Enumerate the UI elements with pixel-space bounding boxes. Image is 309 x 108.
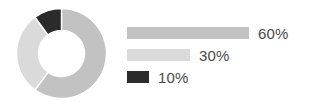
donut-slice-group: [16, 9, 106, 99]
legend-item-10[interactable]: 10%: [127, 68, 189, 86]
donut-svg: [16, 8, 107, 99]
legend-swatch-bar-60: [127, 27, 249, 39]
chart-legend: 60% 30% 10%: [127, 24, 302, 88]
donut-chart-graphic: [16, 8, 107, 99]
legend-swatch-bar-10: [127, 71, 149, 83]
legend-label-30: 30%: [199, 48, 230, 63]
legend-swatch-bar-30: [127, 49, 190, 61]
legend-label-60: 60%: [258, 26, 289, 41]
legend-label-10: 10%: [158, 70, 189, 85]
donut-chart-figure: 60% 30% 10%: [0, 0, 309, 108]
legend-item-60[interactable]: 60%: [127, 24, 289, 42]
legend-item-30[interactable]: 30%: [127, 46, 230, 64]
